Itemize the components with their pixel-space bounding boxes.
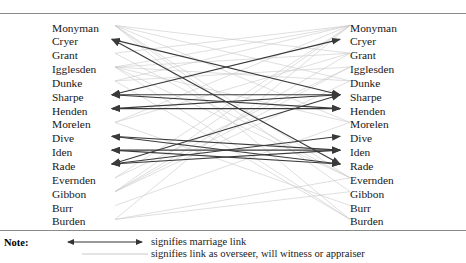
name-right-dunke: Dunke [350, 78, 380, 89]
name-right-sharpe: Sharpe [350, 92, 382, 103]
name-right-igglesden: Igglesden [350, 64, 394, 75]
name-right-grant: Grant [350, 50, 376, 61]
name-right-dive: Dive [350, 133, 372, 144]
name-left-henden: Henden [52, 106, 87, 117]
marriage-link-13 [112, 95, 340, 164]
name-right-burden: Burden [350, 216, 384, 227]
name-left-burden: Burden [52, 216, 86, 227]
name-left-dunke: Dunke [52, 78, 82, 89]
overseer-links [115, 26, 350, 220]
name-left-cryer: Cryer [52, 36, 78, 47]
name-right-henden: Henden [350, 106, 385, 117]
name-left-gibbon: Gibbon [52, 189, 86, 200]
name-left-dive: Dive [52, 133, 74, 144]
name-left-burr: Burr [52, 203, 73, 214]
name-right-evernden: Evernden [350, 175, 394, 186]
name-right-rade: Rade [350, 161, 373, 172]
name-right-cryer: Cryer [350, 36, 376, 47]
name-right-iden: Iden [350, 147, 370, 158]
name-right-burr: Burr [350, 203, 371, 214]
name-left-iden: Iden [52, 147, 72, 158]
name-right-monyman: Monyman [350, 23, 397, 34]
note-label: Note: [4, 237, 29, 248]
name-right-gibbon: Gibbon [350, 189, 384, 200]
legend-label-overseer: signifies link as overseer, will witness… [151, 248, 365, 259]
name-left-monyman: Monyman [52, 23, 99, 34]
name-left-morelen: Morelen [52, 119, 91, 130]
name-left-sharpe: Sharpe [52, 92, 84, 103]
name-right-morelen: Morelen [350, 119, 389, 130]
name-left-igglesden: Igglesden [52, 64, 96, 75]
overseer-link-24 [115, 192, 350, 220]
overseer-link-14 [115, 53, 350, 122]
figure-network-diagram: MonymanCryerGrantIgglesdenDunkeSharpeHen… [0, 0, 466, 263]
name-left-evernden: Evernden [52, 175, 96, 186]
legend-label-marriage: signifies marriage link [151, 236, 246, 247]
note-legend: Note: signifies marriage link signifies … [0, 231, 466, 263]
diagram-area: MonymanCryerGrantIgglesdenDunkeSharpeHen… [0, 14, 466, 222]
name-left-grant: Grant [52, 50, 78, 61]
name-left-rade: Rade [52, 161, 75, 172]
legend-samples [60, 231, 150, 263]
